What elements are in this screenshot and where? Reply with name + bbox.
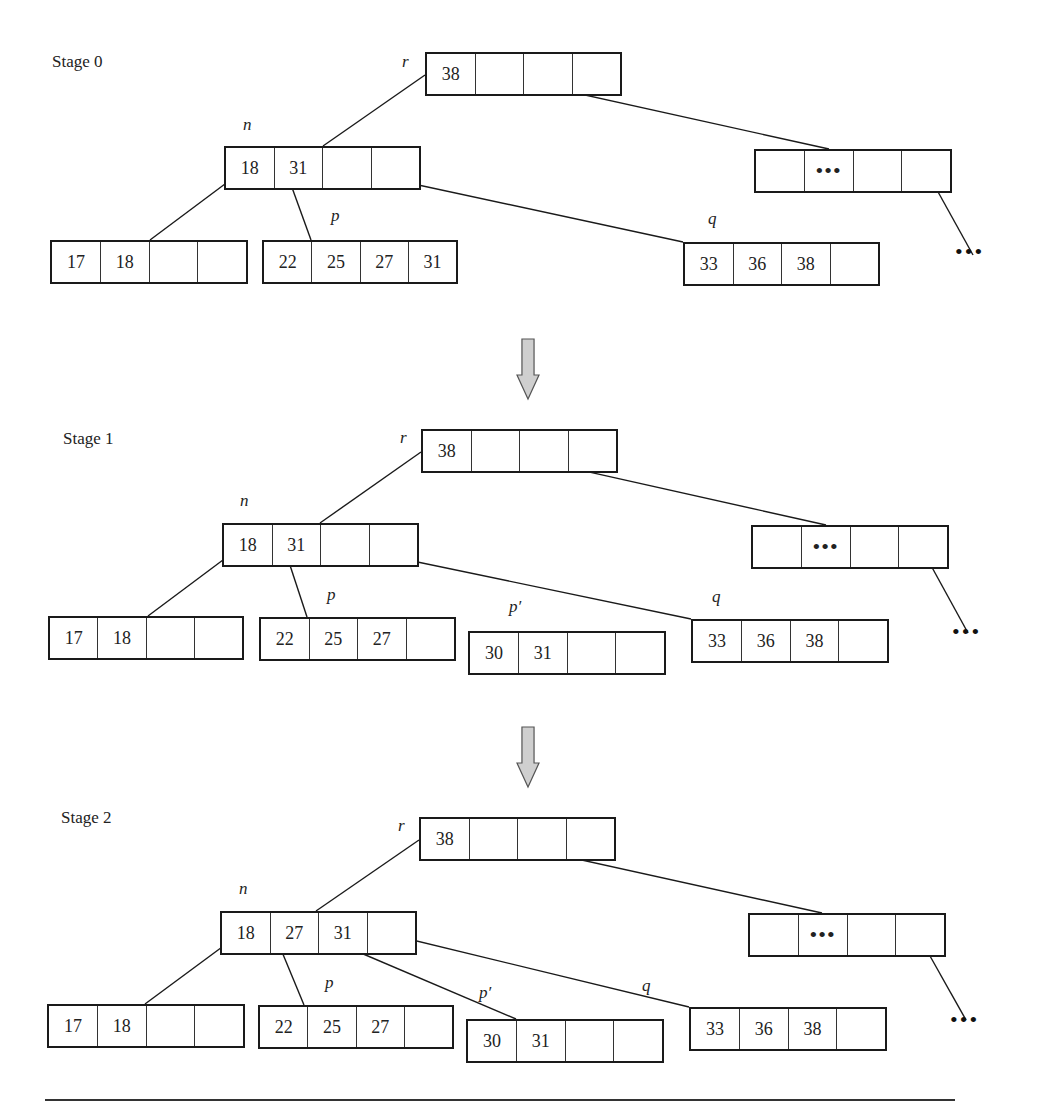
node-key-cell bbox=[614, 1021, 662, 1061]
pointer-line bbox=[320, 452, 421, 523]
btree-insertion-diagram: Stage 038r1831n•••171822252731p333638q••… bbox=[0, 0, 1057, 1117]
node-key-cell bbox=[368, 913, 416, 953]
node-label-n: n bbox=[240, 491, 249, 511]
tree-node-n: 1831 bbox=[222, 523, 419, 567]
node-key-cell bbox=[750, 915, 799, 955]
node-key-cell bbox=[476, 54, 525, 94]
tree-node-p: 222527 bbox=[259, 617, 456, 661]
node-key-cell bbox=[518, 819, 567, 859]
down-arrow-icon bbox=[517, 339, 539, 399]
node-key-cell bbox=[323, 148, 372, 188]
node-key-cell bbox=[321, 525, 370, 565]
node-key-cell bbox=[896, 915, 944, 955]
node-label-r: r bbox=[398, 816, 405, 836]
node-key-cell: 31 bbox=[273, 525, 322, 565]
node-key-cell: 18 bbox=[226, 148, 275, 188]
tree-node-right: ••• bbox=[748, 913, 946, 957]
node-key-cell: 25 bbox=[312, 242, 360, 282]
node-key-cell bbox=[848, 915, 897, 955]
node-key-cell: 31 bbox=[319, 913, 368, 953]
node-label-p_prime: p′ bbox=[479, 983, 491, 1003]
node-key-cell bbox=[147, 618, 195, 658]
node-key-cell: 25 bbox=[308, 1007, 356, 1047]
node-key-cell: 27 bbox=[271, 913, 320, 953]
node-key-cell bbox=[568, 633, 617, 673]
node-key-cell: 30 bbox=[468, 1021, 517, 1061]
tree-node-leaf1: 1718 bbox=[50, 240, 248, 284]
node-key-cell: 36 bbox=[734, 244, 783, 284]
stage-label: Stage 0 bbox=[52, 52, 103, 72]
bottom-divider bbox=[45, 1099, 955, 1101]
node-label-q: q bbox=[642, 976, 651, 996]
node-key-cell: 18 bbox=[224, 525, 273, 565]
node-key-cell: 25 bbox=[310, 619, 359, 659]
node-key-cell bbox=[520, 431, 569, 471]
node-key-cell: 31 bbox=[275, 148, 324, 188]
node-key-cell: 38 bbox=[789, 1009, 838, 1049]
node-key-cell bbox=[472, 431, 521, 471]
node-key-cell bbox=[372, 148, 420, 188]
tree-node-n: 1831 bbox=[224, 146, 421, 190]
node-key-cell: 31 bbox=[409, 242, 456, 282]
node-key-cell: 38 bbox=[423, 431, 472, 471]
node-key-cell: 22 bbox=[261, 619, 310, 659]
node-label-q: q bbox=[708, 209, 717, 229]
node-key-cell: 17 bbox=[49, 1006, 98, 1046]
node-key-cell bbox=[902, 151, 950, 191]
node-key-cell: 33 bbox=[691, 1009, 740, 1049]
tree-node-q: 333638 bbox=[683, 242, 880, 286]
tree-node-r: 38 bbox=[419, 817, 616, 861]
pointer-line bbox=[323, 75, 425, 146]
node-key-cell: 17 bbox=[52, 242, 101, 282]
node-key-cell: 33 bbox=[685, 244, 734, 284]
tree-node-p: 22252731 bbox=[262, 240, 458, 284]
node-key-cell: ••• bbox=[802, 527, 851, 567]
node-key-cell bbox=[566, 1021, 615, 1061]
node-label-p: p bbox=[327, 585, 336, 605]
node-key-cell bbox=[831, 244, 879, 284]
node-key-cell bbox=[470, 819, 519, 859]
node-label-p: p bbox=[331, 206, 340, 226]
ellipsis-icon: ••• bbox=[955, 239, 984, 265]
node-key-cell: 22 bbox=[260, 1007, 308, 1047]
node-key-cell: 22 bbox=[264, 242, 312, 282]
tree-node-right: ••• bbox=[754, 149, 952, 193]
node-key-cell bbox=[195, 1006, 243, 1046]
node-key-cell: 27 bbox=[358, 619, 407, 659]
node-key-cell bbox=[407, 619, 455, 659]
node-key-cell bbox=[753, 527, 802, 567]
node-key-cell bbox=[147, 1006, 196, 1046]
node-label-r: r bbox=[402, 52, 409, 72]
tree-node-p_prime: 3031 bbox=[468, 631, 666, 675]
node-key-cell: 17 bbox=[50, 618, 98, 658]
node-key-cell: 31 bbox=[519, 633, 568, 673]
tree-node-n: 182731 bbox=[220, 911, 417, 955]
tree-node-q: 333638 bbox=[689, 1007, 887, 1051]
node-key-cell: 27 bbox=[361, 242, 409, 282]
node-key-cell: 36 bbox=[742, 621, 791, 661]
tree-node-p_prime: 3031 bbox=[466, 1019, 664, 1063]
tree-node-r: 38 bbox=[421, 429, 618, 473]
node-key-cell: 27 bbox=[357, 1007, 405, 1047]
node-key-cell bbox=[195, 618, 242, 658]
stage-label: Stage 2 bbox=[61, 808, 112, 828]
node-key-cell bbox=[837, 1009, 885, 1049]
node-key-cell: 18 bbox=[222, 913, 271, 953]
ellipsis-icon: ••• bbox=[950, 1007, 979, 1033]
node-key-cell: 31 bbox=[517, 1021, 566, 1061]
tree-node-r: 38 bbox=[425, 52, 622, 96]
pointer-line bbox=[316, 840, 419, 911]
tree-node-leaf1: 1718 bbox=[47, 1004, 245, 1048]
node-key-cell bbox=[851, 527, 900, 567]
down-arrow-icon bbox=[517, 727, 539, 787]
node-label-n: n bbox=[243, 115, 252, 135]
node-label-q: q bbox=[712, 587, 721, 607]
node-label-n: n bbox=[239, 879, 248, 899]
node-key-cell: 33 bbox=[693, 621, 742, 661]
node-key-cell: 38 bbox=[782, 244, 831, 284]
node-label-r: r bbox=[400, 428, 407, 448]
node-key-cell: ••• bbox=[799, 915, 848, 955]
node-key-cell bbox=[524, 54, 573, 94]
node-key-cell: 38 bbox=[427, 54, 476, 94]
node-key-cell bbox=[616, 633, 664, 673]
